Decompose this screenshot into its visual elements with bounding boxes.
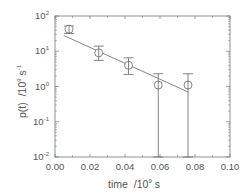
x-tick-label: 0.06 <box>151 161 170 172</box>
x-tick-label: 0.02 <box>81 161 100 172</box>
y-tick-label: 10-1 <box>33 116 50 127</box>
data-point <box>94 46 104 60</box>
plot-frame <box>55 16 230 157</box>
data-points <box>64 25 193 157</box>
y-axis-label: p(t) /109 s-1 <box>16 64 28 118</box>
x-tick-label: 0.04 <box>116 161 135 172</box>
minor-ticks <box>55 18 230 147</box>
x-tick-label: 0.10 <box>221 161 240 172</box>
x-tick-label: 0.00 <box>46 161 65 172</box>
x-axis-label: time /109 s <box>108 178 160 190</box>
chart: 0.000.020.040.060.080.10 10210110010-110… <box>0 0 249 194</box>
data-point <box>153 74 163 157</box>
x-ticks: 0.000.020.040.060.080.10 <box>46 16 240 172</box>
data-point <box>183 74 193 157</box>
y-tick-label: 102 <box>35 10 50 21</box>
y-ticks: 10210110010-110-2 <box>33 10 230 162</box>
x-tick-label: 0.08 <box>186 161 205 172</box>
y-tick-label: 101 <box>35 45 50 56</box>
y-tick-label: 100 <box>35 81 50 92</box>
data-point <box>124 58 134 75</box>
data-point <box>64 25 74 33</box>
